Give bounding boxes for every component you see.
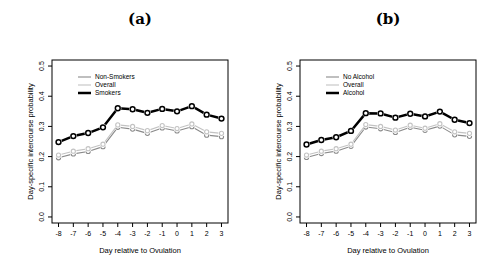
x-axis-tick-label: 2	[205, 230, 209, 237]
data-point-marker	[56, 153, 60, 157]
panel-b: (b)-8-7-6-5-4-3-2-101230.00.10.20.30.40.…	[248, 0, 496, 268]
data-point-marker	[160, 123, 164, 127]
data-point-marker	[467, 131, 471, 135]
data-point-marker	[71, 149, 75, 153]
x-axis-tick-label: 0	[423, 230, 427, 237]
data-point-marker	[467, 121, 472, 126]
x-axis-tick-label: 0	[175, 230, 179, 237]
x-axis-tick-label: 1	[190, 230, 194, 237]
data-point-marker	[71, 134, 76, 139]
data-point-marker	[364, 123, 368, 127]
data-point-marker	[452, 117, 457, 122]
x-axis-tick-label: -4	[363, 230, 369, 237]
data-point-marker	[116, 123, 120, 127]
data-point-marker	[437, 109, 442, 114]
data-point-marker	[438, 122, 442, 126]
series-line-non-smokers	[59, 127, 222, 158]
data-point-marker	[175, 126, 179, 130]
y-axis-label: Day-specific intercourse probability	[26, 83, 35, 200]
x-axis-tick-label: -4	[115, 230, 121, 237]
data-point-marker	[130, 107, 135, 112]
y-axis-tick-label: 0.0	[287, 212, 294, 222]
x-axis-tick-label: -6	[333, 230, 339, 237]
series-line-smokers	[59, 106, 222, 142]
panel-a: (a)-8-7-6-5-4-3-2-101230.00.10.20.30.40.…	[0, 0, 248, 268]
legend-label-overall: Overall	[343, 81, 364, 88]
y-axis-tick-label: 0.2	[39, 152, 46, 162]
data-point-marker	[86, 131, 91, 136]
y-axis-label: Day-specific intercourse probability	[274, 83, 283, 200]
data-point-marker	[423, 114, 428, 119]
x-axis-tick-label: -1	[159, 230, 165, 237]
data-point-marker	[115, 106, 120, 111]
panel-b-chart: (b)-8-7-6-5-4-3-2-101230.00.10.20.30.40.…	[248, 0, 496, 268]
legend-label-overall: Overall	[95, 81, 116, 88]
data-point-marker	[145, 129, 149, 133]
data-point-marker	[349, 129, 354, 134]
x-axis-label: Day relative to Ovulation	[99, 246, 181, 255]
y-axis-tick-label: 0.5	[39, 61, 46, 71]
data-point-marker	[205, 130, 209, 134]
data-point-marker	[101, 125, 106, 130]
data-point-marker	[131, 124, 135, 128]
data-point-marker	[319, 138, 324, 143]
data-point-marker	[204, 112, 209, 117]
data-point-marker	[189, 104, 194, 109]
y-axis-tick-label: 0.1	[287, 182, 294, 192]
x-axis-label: Day relative to Ovulation	[347, 246, 429, 255]
x-axis-tick-label: 3	[468, 230, 472, 237]
y-axis-tick-label: 0.0	[39, 212, 46, 222]
data-point-marker	[219, 131, 223, 135]
y-axis-tick-label: 0.5	[287, 61, 294, 71]
x-axis-tick-label: -6	[85, 230, 91, 237]
data-point-marker	[101, 142, 105, 146]
panel-title: (a)	[128, 10, 152, 28]
data-point-marker	[86, 147, 90, 151]
data-point-marker	[349, 142, 353, 146]
data-point-marker	[145, 110, 150, 115]
series-line-overall	[59, 124, 222, 155]
legend-label-smokers: Smokers	[95, 89, 121, 96]
panel-a-chart: (a)-8-7-6-5-4-3-2-101230.00.10.20.30.40.…	[0, 0, 248, 268]
x-axis-tick-label: -5	[348, 230, 354, 237]
data-point-marker	[304, 142, 309, 147]
y-axis-tick-label: 0.1	[39, 182, 46, 192]
panel-title: (b)	[376, 10, 401, 28]
data-point-marker	[334, 135, 339, 140]
y-axis-tick-label: 0.2	[287, 152, 294, 162]
x-axis-tick-label: -7	[70, 230, 76, 237]
data-point-marker	[334, 147, 338, 151]
x-axis-tick-label: 3	[220, 230, 224, 237]
data-point-marker	[379, 124, 383, 128]
x-axis-tick-label: -3	[377, 230, 383, 237]
y-axis-tick-label: 0.3	[39, 121, 46, 131]
y-axis-tick-label: 0.4	[39, 91, 46, 101]
data-point-marker	[304, 153, 308, 157]
x-axis-tick-label: 1	[438, 230, 442, 237]
data-point-marker	[408, 111, 413, 116]
x-axis-tick-label: -2	[144, 230, 150, 237]
data-point-marker	[190, 122, 194, 126]
x-axis-tick-label: 2	[453, 230, 457, 237]
x-axis-tick-label: -2	[392, 230, 398, 237]
x-axis-tick-label: -8	[303, 230, 309, 237]
data-point-marker	[453, 130, 457, 134]
data-point-marker	[175, 109, 180, 114]
data-point-marker	[56, 140, 61, 145]
y-axis-tick-label: 0.4	[287, 91, 294, 101]
data-point-marker	[363, 111, 368, 116]
x-axis-tick-label: -1	[407, 230, 413, 237]
data-point-marker	[393, 128, 397, 132]
data-point-marker	[319, 149, 323, 153]
data-point-marker	[219, 116, 224, 121]
legend-label-non-smokers: Non-Smokers	[95, 73, 135, 80]
x-axis-tick-label: -5	[100, 230, 106, 237]
legend-label-alcohol: Alcohol	[343, 89, 365, 96]
y-axis-tick-label: 0.3	[287, 121, 294, 131]
legend-label-no-alcohol: No Alcohol	[343, 73, 375, 80]
x-axis-tick-label: -8	[55, 230, 61, 237]
data-point-marker	[160, 106, 165, 111]
data-point-marker	[393, 115, 398, 120]
x-axis-tick-label: -3	[129, 230, 135, 237]
data-point-marker	[408, 123, 412, 127]
